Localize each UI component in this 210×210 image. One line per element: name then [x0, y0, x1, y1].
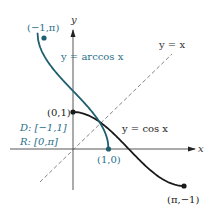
x-axis-label: x: [198, 143, 204, 154]
point-label-neg1-pi: (−1,π): [27, 22, 59, 33]
arccos-label: y = arccos x: [60, 51, 124, 62]
domain-label: D: [−1,1]: [19, 122, 67, 133]
point-0-1: [70, 109, 75, 114]
identity-label: y = x: [158, 39, 185, 50]
point-1-0: [106, 146, 111, 151]
y-axis-label: y: [70, 14, 77, 25]
point-neg1-pi: [41, 35, 46, 40]
figure: y x (−1,π) y = arccos x y = x (0,1) D: […: [0, 0, 210, 210]
cos-label: y = cos x: [121, 123, 168, 134]
point-label-pi-neg1: (π,−1): [167, 194, 199, 205]
point-pi-neg1: [181, 183, 186, 188]
point-label-0-1: (0,1): [47, 107, 71, 118]
range-label: R: [0,π]: [19, 136, 58, 147]
point-label-1-0: (1,0): [97, 154, 121, 165]
